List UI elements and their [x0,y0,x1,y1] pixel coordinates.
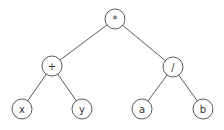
node-x: x [12,99,32,119]
node-b: b [193,99,213,119]
node-label-a: a [139,104,145,115]
expression-tree-diagram: * + / x y a b [0,0,224,130]
node-label-x: x [19,104,25,115]
node-label-y: y [79,104,85,115]
node-a: a [132,99,152,119]
edge-root-div [115,19,173,67]
node-label-root: * [113,14,118,25]
node-label-b: b [200,104,206,115]
node-y: y [72,99,92,119]
node-plus: + [42,56,62,76]
node-div: / [163,57,183,77]
node-root: * [105,9,125,29]
edge-root-plus [52,19,115,66]
node-label-plus: + [48,61,56,72]
